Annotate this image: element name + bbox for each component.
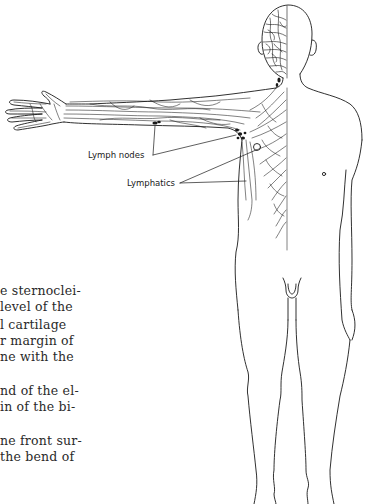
body-text-line: e sternoclei- [0,285,81,298]
head-lymphatics [263,6,287,78]
body-text-line: level of the [0,301,73,314]
body-text-line: nd of the el- [0,385,79,398]
body-text-line: the bend of [0,451,74,464]
lymphatic-system-figure [0,0,368,504]
body-text-line: l cartilage [0,319,66,332]
document-page: Lymph nodes Lymphatics e sternoclei- lev… [0,0,368,504]
body-text-line: ne front sur- [0,435,82,448]
legs-outline [238,310,350,504]
arm-outline [6,88,276,140]
body-text-line: r margin of [0,335,74,348]
body-text-line: ne with the [0,351,74,364]
groin-outline [283,278,301,320]
body-text-line: in of the bi- [0,401,75,414]
head-outline [258,5,362,140]
torso-outline [235,140,362,340]
lymph-node-clusters [152,121,246,140]
label-lymph-nodes: Lymph nodes [88,151,144,160]
label-lymphatics: Lymphatics [127,179,175,188]
chest-lymphatics [242,88,287,250]
